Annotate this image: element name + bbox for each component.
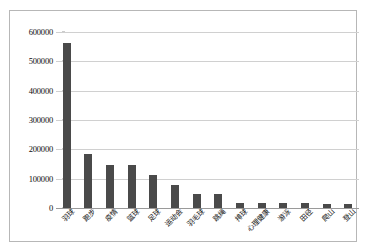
bar — [149, 175, 157, 208]
y-axis-tick-label: 300000 — [29, 116, 53, 125]
x-axis-category-label: 田径 — [299, 209, 314, 224]
x-axis-category-label: 排球 — [234, 209, 249, 224]
x-axis: 羽球跑步疫情篮球足球运动会羽毛球跳绳排球心理健康游泳田径爬山登山 — [56, 209, 359, 251]
y-axis-tick-label: 0 — [49, 204, 53, 213]
x-axis-category-label: 爬山 — [321, 209, 336, 224]
bar — [171, 185, 179, 208]
x-axis-category-label: 跑步 — [83, 209, 98, 224]
bar — [106, 165, 114, 208]
x-axis-category-label: 登山 — [342, 209, 357, 224]
y-axis-tick-label: 400000 — [29, 86, 53, 95]
bar — [128, 165, 136, 208]
x-axis-category-label: 足球 — [148, 209, 163, 224]
y-axis: 0100000200000300000400000500000600000 — [19, 32, 53, 208]
x-axis-category-label: 心理健康 — [246, 209, 271, 234]
bar — [193, 194, 201, 208]
x-axis-category-label: 疫情 — [104, 209, 119, 224]
y-axis-tick-label: 500000 — [29, 57, 53, 66]
y-axis-tick-label: 100000 — [29, 174, 53, 183]
x-axis-category-label: 运动会 — [164, 209, 184, 229]
bar — [84, 154, 92, 208]
bar-series — [56, 32, 359, 208]
x-axis-category-label: 游泳 — [277, 209, 292, 224]
x-axis-category-label: 羽毛球 — [186, 209, 206, 229]
x-axis-category-label: 羽球 — [61, 209, 76, 224]
y-axis-tick-label: 600000 — [29, 28, 53, 37]
x-axis-category-label: 篮球 — [126, 209, 141, 224]
x-axis-category-label: 跳绳 — [213, 209, 228, 224]
bar — [63, 43, 71, 208]
bar — [214, 194, 222, 208]
chart-frame: 0100000200000300000400000500000600000 羽球… — [9, 10, 357, 242]
y-axis-tick-label: 200000 — [29, 145, 53, 154]
